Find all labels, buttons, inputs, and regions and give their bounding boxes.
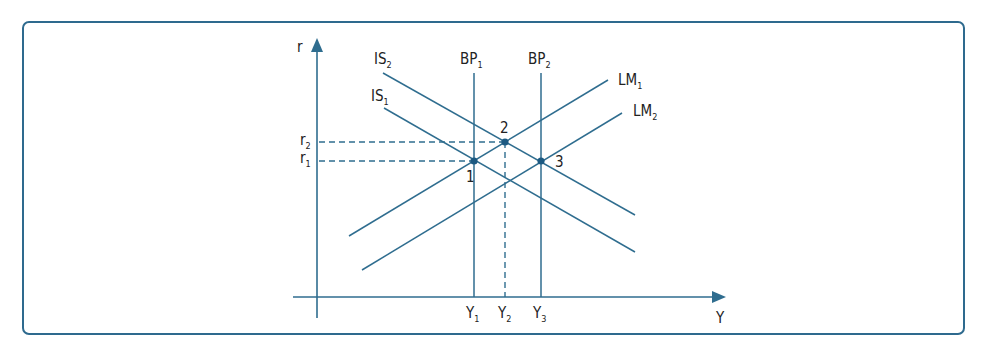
lm1-label: LM1 [618,71,642,91]
is2-label: IS2 [374,50,392,70]
point-3-label: 3 [555,153,564,171]
r-axis-label: r [297,38,303,56]
y-axis-label: Y [715,309,725,327]
is1-curve [384,108,635,252]
y2-label: Y2 [497,304,511,324]
bp2-label: BP2 [528,50,551,70]
is-lm-bp-diagram: r Y r2 r1 Y1 Y2 Y3 IS2 IS1 BP1 BP2 LM1 L… [0,0,985,349]
y-axis-arrow-icon [712,291,726,303]
r2-label: r2 [300,131,311,151]
lm2-label: LM2 [633,102,657,122]
y3-label: Y3 [532,304,546,324]
lm2-curve [362,113,622,270]
r1-label: r1 [300,149,311,169]
is2-curve [383,73,635,215]
point-3 [537,157,544,164]
r-axis-arrow-icon [311,38,323,52]
point-2 [501,138,508,145]
y1-label: Y1 [465,304,479,324]
bp1-label: BP1 [460,50,483,70]
point-1 [470,157,477,164]
point-2-label: 2 [500,119,509,137]
is1-label: IS1 [371,87,389,107]
point-1-label: 1 [466,168,475,186]
